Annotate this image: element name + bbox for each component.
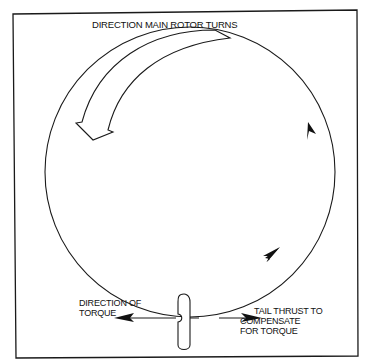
- torque-label-line-1: DIRECTION OF: [79, 298, 141, 308]
- thrust-label-line-3: FOR TORQUE: [240, 326, 323, 336]
- main-rotor-circle: [45, 27, 335, 317]
- diagram-canvas: DIRECTION MAIN ROTOR TURNS DIRECTION OF …: [0, 0, 369, 362]
- diagram-title: DIRECTION MAIN ROTOR TURNS: [92, 20, 237, 30]
- torque-label: DIRECTION OF TORQUE: [79, 298, 141, 318]
- thrust-label: TAIL THRUST TO COMPENSATE FOR TORQUE: [254, 306, 323, 336]
- thrust-label-line-1: TAIL THRUST TO: [254, 306, 323, 316]
- thrust-label-line-2: COMPENSATE: [240, 316, 323, 326]
- tail-rotor-icon: [178, 294, 190, 350]
- torque-label-line-2: TORQUE: [79, 308, 141, 318]
- large-curved-arrow: [76, 30, 230, 140]
- arrowhead-up-icon: [307, 122, 316, 140]
